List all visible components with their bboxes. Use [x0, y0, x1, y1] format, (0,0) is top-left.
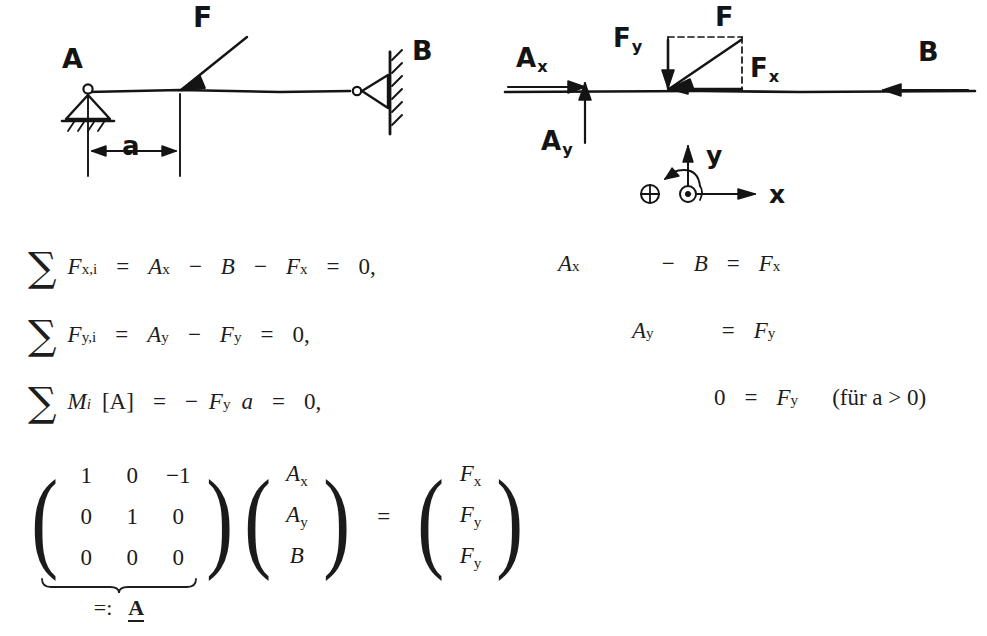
equation-sum-fx: ∑ Fx,i = Ax − B − Fx = 0, — [28, 240, 376, 280]
eq2-term1-sub: y — [161, 328, 169, 346]
matrix-cell: 0 — [63, 545, 109, 571]
req1-rhs-sub: x — [773, 257, 781, 275]
vector-cell: Fx — [449, 461, 491, 490]
vector-cell-sub: y — [474, 554, 482, 571]
req2-equals: = — [722, 318, 735, 344]
req1-term1: A — [558, 251, 572, 277]
req1-rhs: F — [759, 251, 773, 277]
matrix-cell: 1 — [109, 504, 155, 530]
req3-term1: 0 — [714, 385, 726, 411]
label-ax-main: A — [516, 43, 537, 73]
underbrace-label: =: A — [40, 595, 198, 621]
eq2-term1: A — [147, 322, 161, 348]
label-fy-main: F — [613, 23, 631, 53]
eq1-term3-sub: x — [300, 260, 308, 278]
eq1-term3: F — [286, 254, 300, 280]
eq1-equals-2: = — [327, 254, 340, 280]
underbrace-label-symbol: A — [128, 595, 144, 622]
label-ay-main: A — [541, 126, 562, 156]
eq3-rhs: 0 — [304, 389, 316, 415]
vector-cell-main: A — [286, 461, 300, 486]
unknown-vector: Ax Ay B — [276, 455, 318, 578]
vector-row: B — [276, 537, 318, 578]
matrix-row: 0 0 0 — [63, 537, 201, 578]
vector-cell: Fy — [449, 543, 491, 572]
label-fx-sub: x — [769, 67, 780, 86]
equation-sum-moment: ∑ Mi [A] = − Fy a = 0, — [28, 375, 321, 415]
label-axis-x: x — [769, 182, 786, 207]
eq1-equals-1: = — [116, 254, 129, 280]
coefficient-matrix: 1 0 −1 0 1 0 0 0 0 — [63, 455, 201, 578]
label-force-f-left: F — [193, 4, 213, 32]
vector-cell-main: A — [286, 502, 300, 527]
eq1-op1: − — [189, 254, 202, 280]
underbrace-icon — [40, 578, 198, 594]
req3-rhs: F — [776, 385, 790, 411]
req1-equals: = — [727, 251, 740, 277]
vector-row: Fx — [449, 455, 491, 496]
eq2-term2: F — [220, 322, 234, 348]
matrix-cell: −1 — [155, 463, 201, 489]
eq2-lhs-sub: y,i — [82, 328, 97, 346]
sum-symbol: ∑ — [28, 382, 57, 422]
label-fx: Fx — [750, 55, 780, 85]
eq1-term1: A — [148, 254, 162, 280]
rhs-vector: Fx Fy Fy — [449, 455, 491, 578]
sum-symbol: ∑ — [28, 247, 57, 287]
eq3-lhs-sub: i — [87, 395, 91, 413]
eq1-rhs: 0 — [359, 254, 371, 280]
eq3-term1-sub: y — [223, 395, 231, 413]
equation-result-x: Ax − B = Fx — [558, 251, 780, 277]
eq2-term2-sub: y — [234, 328, 242, 346]
req1-term1-sub: x — [572, 257, 580, 275]
vector-cell-sub: x — [300, 472, 308, 489]
eq3-term2: a — [242, 389, 254, 415]
label-support-b: B — [412, 37, 433, 64]
req1-term2: B — [694, 251, 708, 277]
eq1-comma: , — [370, 254, 376, 280]
equation-sum-fy: ∑ Fy,i = Ay − Fy = 0, — [28, 308, 310, 348]
eq3-term1: F — [209, 389, 223, 415]
label-reaction-b: B — [918, 38, 939, 65]
matrix-cell: 0 — [109, 545, 155, 571]
vector-cell: Fy — [449, 502, 491, 531]
label-ay: Ay — [541, 128, 573, 158]
vector-row: Ay — [276, 496, 318, 537]
eq2-lhs: F — [68, 322, 82, 348]
matrix-cell: 0 — [155, 504, 201, 530]
vector-cell-main: F — [460, 461, 474, 486]
eq2-equals-1: = — [115, 322, 128, 348]
vector-cell: Ay — [276, 502, 318, 531]
eq3-comma: , — [316, 389, 322, 415]
matrix-cell: 0 — [109, 463, 155, 489]
req2-rhs-sub: y — [768, 324, 776, 342]
req2-term1-sub: y — [646, 324, 654, 342]
label-ax: Ax — [516, 45, 548, 75]
vector-row: Ax — [276, 455, 318, 496]
vector-cell-sub: y — [474, 513, 482, 530]
matrix-equals: = — [377, 504, 390, 530]
label-force-f-right: F — [715, 3, 734, 30]
req3-equals: = — [745, 385, 758, 411]
vector-cell-main: F — [460, 543, 474, 568]
matrix-cell: 0 — [155, 545, 201, 571]
vector-row: Fy — [449, 537, 491, 578]
vector-cell-sub: x — [474, 472, 482, 489]
req3-rhs-sub: y — [791, 391, 799, 409]
eq1-lhs-sub: x,i — [82, 260, 98, 278]
eq2-op1: − — [188, 322, 201, 348]
matrix-cell: 0 — [63, 504, 109, 530]
eq2-comma: , — [304, 322, 310, 348]
eq3-bracket: [A] — [102, 389, 134, 415]
eq1-term1-sub: x — [162, 260, 170, 278]
eq2-rhs: 0 — [293, 322, 305, 348]
vector-cell: Ax — [276, 461, 318, 490]
matrix-equation: ( 1 0 −1 0 1 0 0 0 0 ) ( Ax — [26, 455, 529, 578]
underbrace-group: =: A — [40, 578, 198, 621]
matrix-row: 0 1 0 — [63, 496, 201, 537]
eq3-op1: − — [185, 389, 198, 415]
req3-note: (für a > 0) — [832, 385, 926, 411]
vector-cell-main: B — [290, 543, 304, 568]
req2-rhs: F — [754, 318, 768, 344]
sum-symbol: ∑ — [28, 315, 57, 355]
